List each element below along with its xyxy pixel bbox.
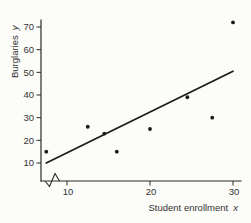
x-axis-title-variable: x	[232, 202, 239, 213]
y-tick-label: 70	[23, 21, 34, 32]
regression-line	[46, 71, 233, 163]
x-tick-label: 30	[229, 186, 240, 197]
data-point	[115, 150, 119, 154]
data-point	[185, 95, 189, 99]
data-point	[86, 125, 90, 129]
x-tick-label: 10	[63, 186, 74, 197]
y-axis-title: Burglariesy	[9, 24, 20, 78]
data-point	[231, 21, 235, 25]
scatter-plot-figure: 10203040506070 102030 Burglariesy Studen…	[0, 0, 251, 223]
scatter-plot: 10203040506070 102030 Burglariesy Studen…	[0, 0, 251, 223]
y-axis-ticks: 10203040506070	[23, 21, 41, 168]
y-axis-title-variable: y	[9, 24, 20, 31]
x-axis-ticks: 102030	[63, 181, 240, 197]
y-tick-label: 40	[23, 89, 34, 100]
y-tick-label: 10	[23, 157, 34, 168]
y-tick-label: 30	[23, 112, 34, 123]
data-point	[44, 150, 48, 154]
data-point	[148, 127, 152, 131]
data-point	[102, 132, 106, 136]
x-axis-break-icon	[45, 174, 60, 187]
y-tick-label: 50	[23, 67, 34, 78]
y-tick-label: 60	[23, 44, 34, 55]
data-point	[210, 116, 214, 120]
y-axis-title-text: Burglaries	[9, 35, 20, 78]
x-axis-title-text: Student enrollment	[149, 202, 229, 213]
x-tick-label: 20	[146, 186, 157, 197]
x-axis-title: Student enrollmentx	[149, 202, 240, 213]
data-points	[44, 21, 235, 154]
y-tick-label: 20	[23, 135, 34, 146]
